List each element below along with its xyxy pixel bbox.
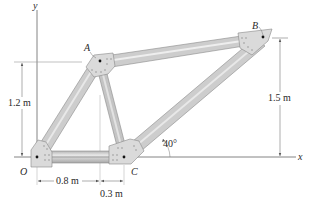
x-axis-label: x xyxy=(297,151,303,162)
dimension-1-2m: 1.2 m xyxy=(6,63,36,156)
dimension-1-5m: 1.5 m xyxy=(266,39,296,156)
dimension-label-1-5m: 1.5 m xyxy=(268,92,291,103)
dimension-0-8m: 0.8 m xyxy=(38,175,99,186)
joint-label-A: A xyxy=(83,42,91,53)
gusset-plate-C xyxy=(109,139,144,164)
joint-label-C: C xyxy=(131,166,138,177)
angle-40deg: 40° xyxy=(162,138,177,157)
joint-label-O: O xyxy=(20,166,27,177)
dimension-label-0-3m: 0.3 m xyxy=(100,188,123,199)
dimension-0-3m: 0.3 m xyxy=(100,181,123,199)
truss-diagram: y x xyxy=(0,0,312,209)
dimension-label-0-8m: 0.8 m xyxy=(56,175,79,186)
angle-label-40: 40° xyxy=(163,138,177,149)
dimension-label-1-2m: 1.2 m xyxy=(8,97,31,108)
y-axis-label: y xyxy=(32,0,38,11)
joint-label-B: B xyxy=(252,20,258,31)
